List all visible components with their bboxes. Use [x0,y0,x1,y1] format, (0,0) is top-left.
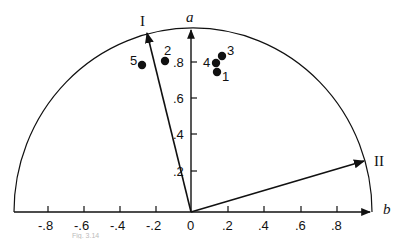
point-5 [138,61,146,69]
figure-caption: Fig. 3.14 [72,232,99,239]
vector-II-label: II [374,153,384,169]
svg-text:0: 0 [187,218,194,233]
factor-loading-diagram: -.8 -.6 -.4 -.2 0 .2 .4 .6 .8 .2 .4 .6 .… [0,0,403,239]
vector-I-label: I [140,13,145,29]
point-4 [212,59,220,67]
vector-II [191,161,364,212]
svg-text:.2: .2 [222,218,233,233]
svg-text:-.6: -.6 [74,218,89,233]
svg-text:.8: .8 [173,55,184,70]
svg-text:-.4: -.4 [110,218,125,233]
svg-text:.6: .6 [173,91,184,106]
x-tick-labels: -.8 -.6 -.4 -.2 0 .2 .4 .6 .8 [38,218,342,233]
y-axis-label: a [186,9,194,25]
point-2 [161,57,169,65]
svg-text:-.8: -.8 [38,218,53,233]
unit-semicircle [14,28,372,212]
svg-text:.4: .4 [258,218,269,233]
point-3 [218,52,226,60]
point-1 [213,68,221,76]
svg-text:-.2: -.2 [146,218,161,233]
svg-text:.6: .6 [295,218,306,233]
svg-text:5: 5 [130,53,137,68]
svg-text:2: 2 [164,43,171,58]
svg-text:3: 3 [227,43,234,58]
svg-text:.8: .8 [331,218,342,233]
svg-text:.4: .4 [173,127,184,142]
svg-text:1: 1 [222,69,229,84]
x-axis-label: b [383,201,391,217]
y-ticks [191,62,197,171]
svg-text:4: 4 [203,55,210,70]
